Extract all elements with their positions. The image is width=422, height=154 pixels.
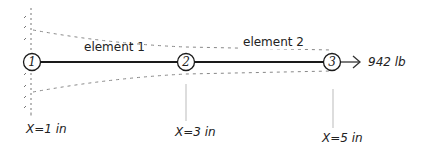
node-3-label: 3 (323, 53, 341, 71)
element-1-label: element 1 (84, 40, 145, 54)
position-leaders (31, 84, 333, 128)
node-1-label: 1 (23, 53, 41, 71)
node-2-position-label: X=3 in (175, 125, 216, 139)
node-1-position-label: X=1 in (26, 122, 67, 136)
load-label: 942 lb (368, 55, 406, 69)
element-2-label: element 2 (241, 35, 306, 49)
load-arrow (341, 56, 360, 68)
node-2-label: 2 (177, 53, 195, 71)
node-3-position-label: X=5 in (322, 131, 363, 145)
